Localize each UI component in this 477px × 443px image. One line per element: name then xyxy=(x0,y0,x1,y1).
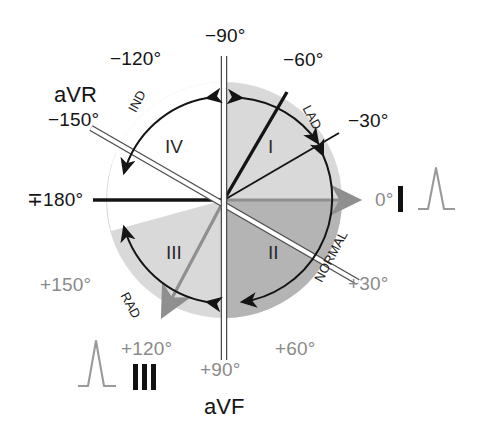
degree-label-minus-120: −120° xyxy=(110,49,161,68)
quadrant-label-iv: IV xyxy=(165,137,183,156)
ecg-strip-lead-i-label xyxy=(398,186,403,212)
degree-label-plus-90: +90° xyxy=(200,360,241,379)
lead-bar xyxy=(151,364,156,390)
degree-label-plus-150: +150° xyxy=(40,275,91,294)
lead-bar xyxy=(133,364,138,390)
lead-bar xyxy=(142,364,147,390)
degree-label-plus-60: +60° xyxy=(275,339,316,358)
degree-label-0: 0° xyxy=(375,190,394,209)
ecg-trace-lead-i xyxy=(418,168,455,209)
ecg-trace-lead-iii xyxy=(78,341,116,386)
degree-label-plus-30: +30° xyxy=(348,274,389,293)
degree-label-minus-150: −150° xyxy=(48,110,99,129)
degree-label-180: ∓180° xyxy=(27,190,83,209)
lead-bar xyxy=(398,186,403,212)
lead-label-avf: aVF xyxy=(204,396,244,418)
figure-canvas: −90° −120° −60° −150° −30° ∓180° 0° +150… xyxy=(0,0,477,443)
degree-label-minus-30: −30° xyxy=(348,111,389,130)
degree-label-plus-120: +120° xyxy=(121,339,172,358)
degree-label-minus-60: −60° xyxy=(283,50,324,69)
ecg-strip-lead-iii-label xyxy=(133,364,156,390)
quadrant-label-iii: III xyxy=(166,243,182,262)
quadrant-label-i: I xyxy=(268,137,273,156)
lead-label-avr: aVR xyxy=(54,84,97,106)
quadrant-label-ii: II xyxy=(268,243,279,262)
degree-label-minus-90: −90° xyxy=(205,26,246,45)
